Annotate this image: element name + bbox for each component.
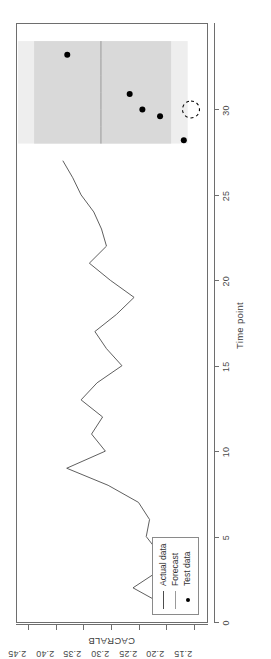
x-axis-tick-mark [214, 451, 219, 452]
x-axis-tick-label: 20 [221, 267, 231, 295]
x-axis-title: Time point [234, 302, 245, 349]
legend-line-glyph [163, 591, 164, 609]
y-axis-tick-mark [139, 625, 140, 630]
y-axis-tick-mark [83, 625, 84, 630]
rotated-figure-stage: 051015202530 Time point 2.152.202.252.30… [0, 0, 271, 659]
y-axis-tick-mark [111, 625, 112, 630]
legend-dot-marker [182, 590, 193, 610]
forecast-chart: 051015202530 Time point 2.152.202.252.30… [0, 0, 271, 659]
x-axis-tick-label: 15 [221, 353, 231, 381]
plot-panel [16, 23, 208, 623]
x-axis-tick-mark [214, 109, 219, 110]
x-axis-tick-label: 5 [221, 524, 231, 552]
legend-dot-glyph [186, 598, 190, 602]
x-axis-tick-label: 0 [221, 609, 231, 637]
test-data-point [157, 113, 163, 119]
x-axis-tick-mark [214, 622, 219, 623]
legend-item: Forecast [170, 543, 181, 610]
y-axis-tick-mark [194, 625, 195, 630]
y-axis-tick-label: 2.45 [8, 649, 46, 659]
x-axis-tick-mark [214, 366, 219, 367]
y-axis-title: CACRALB [72, 636, 152, 647]
y-axis-tick-mark [28, 625, 29, 630]
legend-item: Test data [182, 543, 193, 610]
legend-line-glyph [175, 591, 176, 609]
test-data-point [181, 137, 187, 143]
legend-item: Actual data [158, 543, 169, 610]
legend-item-label: Test data [182, 552, 193, 587]
actual-data-line [63, 161, 164, 605]
x-axis-tick-mark [214, 195, 219, 196]
legend-line-marker [170, 590, 181, 610]
prediction-interval-band-80 [34, 41, 171, 144]
legend-line-marker [158, 590, 169, 610]
x-axis-tick-mark [214, 537, 219, 538]
y-axis-line [16, 624, 208, 625]
legend: Actual dataForecastTest data [152, 537, 199, 615]
test-data-point [64, 52, 70, 58]
test-data-point [139, 106, 145, 112]
test-data-point [127, 91, 133, 97]
y-axis-tick-mark [166, 625, 167, 630]
x-axis-tick-label: 25 [221, 182, 231, 210]
x-axis-tick-label: 30 [221, 96, 231, 124]
x-axis-tick-mark [214, 280, 219, 281]
legend-item-label: Forecast [170, 553, 181, 586]
legend-item-label: Actual data [158, 543, 169, 586]
y-axis-tick-mark [56, 625, 57, 630]
plot-canvas [17, 24, 207, 622]
x-axis-tick-label: 10 [221, 438, 231, 466]
x-axis-line [214, 23, 215, 623]
